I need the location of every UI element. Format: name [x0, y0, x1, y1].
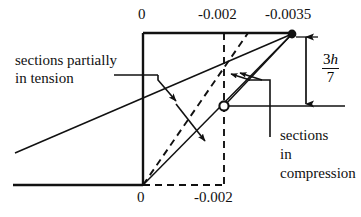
bottom-zero-label: 0 [137, 189, 145, 205]
dashed-diagonal-strain-line [143, 33, 248, 185]
compression-leader-bracket [248, 80, 270, 137]
dimension-numerator-coefficient: 3 [323, 51, 331, 67]
strain-diagram-figure: 0 -0.002 -0.0035 0 -0.002 sections parti… [0, 0, 361, 217]
pivot-to-apex-line [224, 34, 292, 106]
dimension-numerator-variable: h [331, 51, 339, 67]
top-strain-max-label: -0.0035 [265, 6, 311, 22]
diagram-canvas [0, 0, 361, 217]
compression-note-line-3: compression [280, 165, 356, 181]
tension-leader-arrow-lower [176, 104, 205, 141]
dimension-fraction-3h-over-7: 3h 7 [322, 52, 339, 85]
top-strain-mid-label: -0.002 [198, 6, 237, 22]
top-zero-label: 0 [138, 6, 146, 22]
dimension-numerator: 3h [322, 52, 339, 69]
tension-note-line-1: sections partially [15, 52, 117, 68]
compression-leader-line [231, 73, 270, 137]
compression-leader-arrow-inner [240, 73, 262, 80]
tension-note-line-2: in tension [15, 70, 74, 86]
bottom-strain-mid-label: -0.002 [194, 189, 233, 205]
apex-point-marker [288, 30, 297, 39]
dimension-denominator: 7 [322, 69, 339, 85]
pivot-point-marker [219, 101, 228, 110]
compression-note-line-1: sections [280, 127, 328, 143]
compression-note-line-2: in [280, 146, 292, 162]
dimension-line-3h-over-7 [296, 37, 318, 104]
dashed-construction-lines [143, 33, 248, 185]
tension-leader-line [114, 75, 205, 141]
